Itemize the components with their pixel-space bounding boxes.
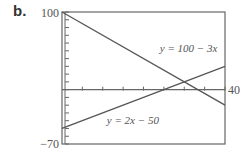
series-line-1 bbox=[62, 12, 225, 105]
equation-label-1: y = 100 − 3x bbox=[159, 42, 218, 54]
chart: 100−7040y = 100 − 3xy = 2x − 50 bbox=[0, 0, 250, 154]
y-min-label: −70 bbox=[40, 137, 59, 151]
equation-label-2: y = 2x − 50 bbox=[106, 114, 160, 126]
x-max-label: 40 bbox=[228, 83, 240, 97]
y-max-label: 100 bbox=[41, 6, 59, 20]
